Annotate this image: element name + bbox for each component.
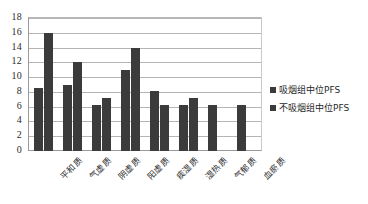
bar: [73, 62, 82, 151]
bar: [121, 70, 130, 151]
chart-legend: 吸烟组中位PFS不吸烟组中位PFS: [270, 84, 366, 120]
bar: [63, 85, 72, 152]
bar: [102, 98, 111, 151]
bars-layer: [29, 18, 261, 151]
legend-swatch-icon: [270, 87, 276, 93]
y-tick-label: 8: [17, 86, 22, 96]
bar: [189, 98, 198, 151]
y-tick-label: 10: [12, 71, 22, 81]
x-tick-label: 气郁质: [232, 156, 257, 181]
x-tick-label: 阴虚质: [116, 156, 141, 181]
legend-label: 吸烟组中位PFS: [279, 85, 340, 95]
bar-chart: 181614121086420 平和质气虚质阴虚质阳虚质痰湿质湿热质气郁质血瘀质…: [0, 0, 368, 204]
y-tick-label: 4: [17, 115, 22, 125]
bar: [237, 105, 246, 151]
x-tick-label: 气虚质: [87, 156, 112, 181]
y-tick-label: 6: [17, 101, 22, 111]
y-tick-label: 12: [12, 56, 22, 66]
legend-item: 吸烟组中位PFS: [270, 84, 366, 95]
x-tick-label: 痰湿质: [174, 156, 199, 181]
bar: [92, 105, 101, 151]
x-tick-label: 血瘀质: [261, 156, 286, 181]
y-tick-label: 14: [12, 42, 22, 52]
bar: [34, 88, 43, 151]
x-axis: 平和质气虚质阴虚质阳虚质痰湿质湿热质气郁质血瘀质: [28, 152, 262, 204]
bar: [160, 105, 169, 151]
x-tick-label: 湿热质: [203, 156, 228, 181]
y-tick-label: 16: [12, 27, 22, 37]
bar: [131, 48, 140, 151]
legend-item: 不吸烟组中位PFS: [270, 102, 366, 113]
bar: [44, 33, 53, 151]
y-tick-label: 0: [17, 145, 22, 155]
legend-label: 不吸烟组中位PFS: [279, 103, 349, 113]
y-axis: 181614121086420: [0, 0, 26, 168]
y-tick-label: 2: [17, 130, 22, 140]
bar: [150, 91, 159, 151]
bar: [179, 105, 188, 151]
y-tick-label: 18: [12, 12, 22, 22]
x-tick-label: 平和质: [58, 156, 83, 181]
x-tick-label: 阳虚质: [145, 156, 170, 181]
legend-swatch-icon: [270, 105, 276, 111]
bar: [208, 105, 217, 151]
